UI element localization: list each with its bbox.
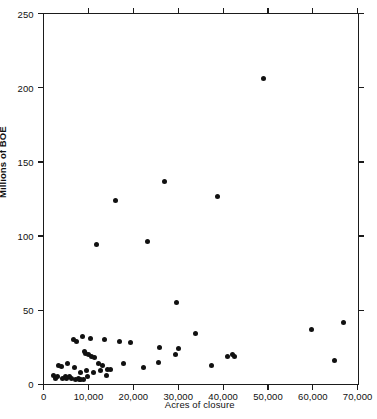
data-point [84,368,89,373]
data-point [80,334,85,339]
data-point [341,320,346,325]
data-point [309,327,314,332]
data-point [91,370,96,375]
data-point [74,339,79,344]
data-point [156,360,161,365]
x-tick-top [312,8,313,14]
y-tick-label: 200 [18,82,34,93]
y-tick-right [358,13,364,14]
y-tick-label: 100 [18,231,34,242]
x-tick [312,384,313,390]
data-point [332,358,337,363]
data-point [128,340,133,345]
data-point [121,361,126,366]
y-tick [38,235,44,236]
y-tick-right [358,310,364,311]
data-point [225,354,230,359]
y-tick [38,13,44,14]
data-point [176,346,181,351]
data-point [145,239,150,244]
y-tick [38,161,44,162]
y-tick [38,310,44,311]
data-point [215,194,220,199]
data-point [108,367,113,372]
x-tick-top [223,8,224,14]
y-tick [38,384,44,385]
y-tick-label: 150 [18,156,34,167]
data-point [174,300,179,305]
x-tick [357,384,358,390]
x-tick-top [88,8,89,14]
x-tick [43,384,44,390]
data-point [92,355,97,360]
data-point [117,339,122,344]
data-point [85,374,90,379]
x-tick-top [178,8,179,14]
x-tick-top [267,8,268,14]
x-tick-top [133,8,134,14]
data-point [173,352,178,357]
x-tick [133,384,134,390]
data-point [55,374,60,379]
x-tick [223,384,224,390]
data-point [59,364,64,369]
y-tick-label: 0 [28,379,33,390]
data-point [98,368,103,373]
y-tick [38,87,44,88]
data-point [141,365,146,370]
data-point [162,179,167,184]
data-point [88,336,93,341]
y-axis-title: Millions of BOE [0,126,8,198]
data-point [157,345,162,350]
data-point [209,363,214,368]
data-point [78,370,83,375]
data-point [113,198,118,203]
data-point [100,363,105,368]
data-point [72,365,77,370]
data-point [65,361,70,366]
x-tick [267,384,268,390]
plot-area: 010,00020,00030,00040,00050,00060,00070,… [43,13,359,386]
y-tick-right [358,87,364,88]
x-axis-title: Acres of closure [43,399,357,410]
data-point [104,373,109,378]
y-tick-right [358,235,364,236]
y-tick-label: 250 [18,8,34,19]
data-point [232,354,237,359]
data-point [94,242,99,247]
y-tick-right [358,161,364,162]
data-point [193,331,198,336]
scatter-plot-figure: 010,00020,00030,00040,00050,00060,00070,… [0,0,377,419]
x-tick [88,384,89,390]
y-tick-label: 50 [23,305,34,316]
data-point [261,76,266,81]
data-point [102,337,107,342]
x-tick [178,384,179,390]
